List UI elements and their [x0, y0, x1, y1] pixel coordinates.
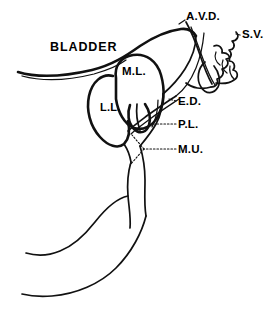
- seminal-vesicle-inner-lobes: [214, 45, 237, 83]
- label-membranous-urethra: M.U.: [178, 144, 203, 156]
- anatomy-drawing: [0, 0, 277, 314]
- ampulla-vas-deferens-inner: [191, 27, 215, 85]
- label-posterior-lobe: P.L.: [178, 119, 198, 131]
- label-seminal-vesicle: S.V.: [242, 29, 263, 41]
- label-lateral-lobe: L.L.: [100, 102, 120, 113]
- penile-lower-outline: [22, 216, 146, 296]
- label-middle-lobe: M.L.: [122, 66, 146, 78]
- label-bladder: BLADDER: [50, 41, 117, 54]
- urethra-left-wall: [128, 162, 131, 228]
- penile-upper-outline: [26, 196, 128, 255]
- leader-ampulla-vas-deferens: [179, 20, 185, 24]
- posterior-lobe-outline: [140, 94, 163, 146]
- anatomy-figure: BLADDER A.V.D. S.V. M.L. L.L. E.D. P.L. …: [0, 0, 277, 314]
- seminal-vesicle-lobe-divider-1: [215, 52, 220, 65]
- label-ampulla-vas-deferens: A.V.D.: [186, 11, 220, 23]
- urethra-right-wall: [140, 146, 146, 216]
- lateral-lobe-inner-edge: [124, 144, 131, 162]
- urethral-crest-line: [137, 104, 140, 130]
- leader-membranous-urethra-branch-1: [132, 135, 144, 149]
- leader-seminal-vesicle: [236, 34, 240, 35]
- label-ejaculatory-duct: E.D.: [178, 96, 201, 108]
